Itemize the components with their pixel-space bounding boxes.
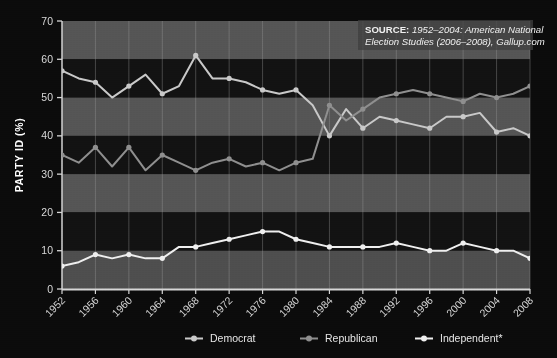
data-point [227, 156, 232, 161]
data-point [193, 53, 198, 58]
legend-dot-marker [306, 336, 312, 342]
data-point [360, 106, 365, 111]
y-axis-title: PARTY ID (%) [13, 118, 25, 192]
data-point [461, 99, 466, 104]
data-point [494, 129, 499, 134]
data-point [260, 229, 265, 234]
data-point [327, 103, 332, 108]
data-point [93, 252, 98, 257]
data-point [427, 91, 432, 96]
source-label: SOURCE: [365, 24, 409, 35]
legend-dot-marker [191, 336, 197, 342]
data-point [293, 160, 298, 165]
data-point [93, 145, 98, 150]
data-point [327, 133, 332, 138]
data-point [160, 91, 165, 96]
data-point [360, 126, 365, 131]
chart-legend: DemocratRepublicanIndependent* [185, 332, 502, 344]
data-point [494, 248, 499, 253]
y-tick-label: 70 [41, 15, 53, 27]
y-tick-label: 60 [41, 53, 53, 65]
legend-dot-marker [421, 336, 427, 342]
data-point [126, 83, 131, 88]
data-point [227, 76, 232, 81]
data-point [293, 87, 298, 92]
y-tick-label: 30 [41, 168, 53, 180]
data-point [260, 160, 265, 165]
data-point [160, 256, 165, 261]
data-point [427, 248, 432, 253]
data-point [394, 91, 399, 96]
legend-label: Democrat [210, 332, 256, 344]
data-point [260, 87, 265, 92]
data-point [327, 244, 332, 249]
data-point [126, 252, 131, 257]
data-point [293, 237, 298, 242]
y-tick-label: 40 [41, 129, 53, 141]
data-point [494, 95, 499, 100]
y-tick-label: 0 [47, 283, 53, 295]
data-point [193, 244, 198, 249]
data-point [394, 240, 399, 245]
data-point [193, 168, 198, 173]
data-point [93, 80, 98, 85]
data-point [160, 152, 165, 157]
legend-label: Republican [325, 332, 378, 344]
legend-label: Independent* [440, 332, 502, 344]
source-rest: 1952–2004: American National [409, 24, 544, 35]
party-id-line-chart: 010203040506070 PARTY ID (%) 19521956196… [0, 0, 557, 358]
y-tick-label: 10 [41, 244, 53, 256]
data-point [227, 237, 232, 242]
data-point [427, 126, 432, 131]
data-point [461, 114, 466, 119]
y-tick-label: 50 [41, 91, 53, 103]
data-point [461, 240, 466, 245]
source-note-line-2: Election Studies (2006–2008), Gallup.com [365, 36, 545, 47]
data-point [394, 118, 399, 123]
chart-figure: 010203040506070 PARTY ID (%) 19521956196… [0, 0, 557, 358]
data-point [126, 145, 131, 150]
source-note-line-1: SOURCE: 1952–2004: American National [365, 24, 544, 35]
y-tick-label: 20 [41, 206, 53, 218]
data-point [360, 244, 365, 249]
source-note: SOURCE: 1952–2004: American National Ele… [358, 20, 545, 50]
